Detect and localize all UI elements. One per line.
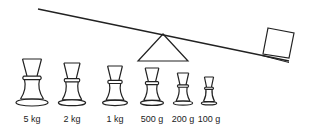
weight-100g <box>201 77 216 105</box>
weight-label-200g: 200 g <box>172 114 195 124</box>
weight-label-2kg: 2 kg <box>63 114 80 124</box>
weight-label-100g: 100 g <box>198 114 221 124</box>
balance-beam-underside <box>262 56 289 63</box>
weight-label-5kg: 5 kg <box>23 114 40 124</box>
weight-200g <box>173 73 192 105</box>
weight-2kg <box>58 63 85 106</box>
weight-1kg <box>103 66 128 106</box>
weight-label-1kg: 1 kg <box>106 114 123 124</box>
weight-500g <box>140 68 163 105</box>
weight-set <box>16 59 217 106</box>
balance-diagram: 5 kg 2 kg 1 kg 500 g 200 g 100 g <box>0 0 309 134</box>
box-on-beam <box>263 28 294 58</box>
weight-label-500g: 500 g <box>141 114 164 124</box>
weight-5kg <box>16 59 48 106</box>
